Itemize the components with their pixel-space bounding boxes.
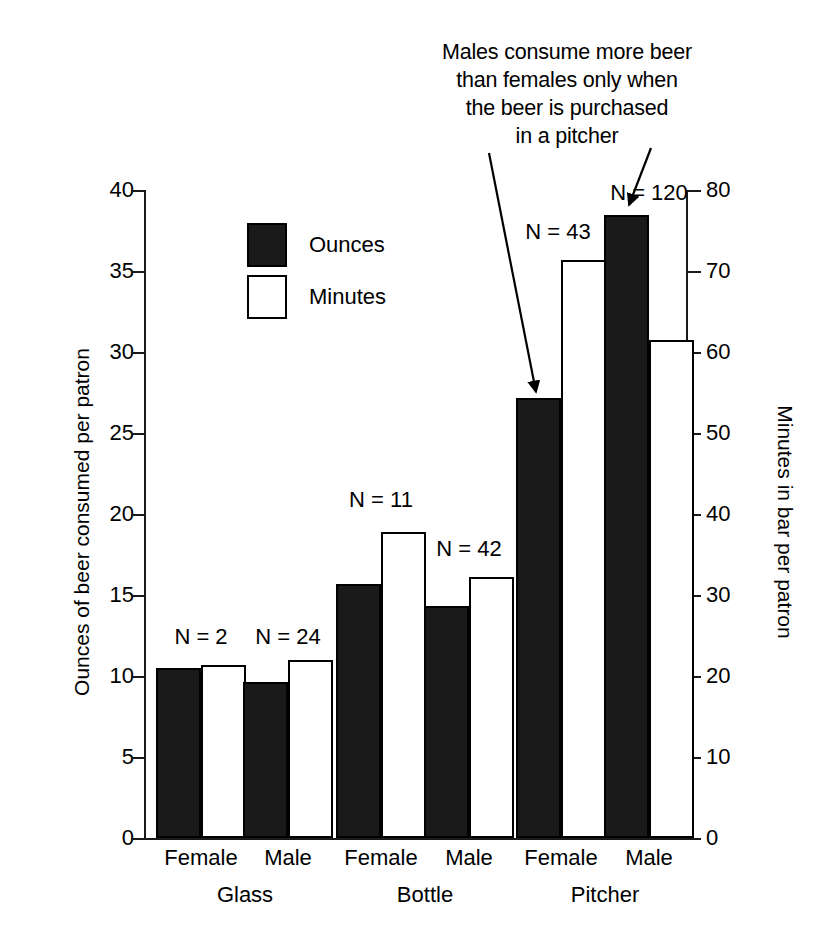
bar-ounces-pitcher-female (516, 398, 561, 838)
open-square-icon (247, 275, 287, 319)
y-tick-left-20: 20 (90, 503, 134, 525)
x-label-pitcher-male: Male (594, 846, 704, 870)
n-label-glass-male: N = 24 (233, 626, 343, 648)
n-label-pitcher-female: N = 43 (498, 221, 618, 243)
plot-area: N = 2 N = 24 N = 11 N = 42 N = 43 N = 12… (146, 190, 686, 838)
legend-label-minutes: Minutes (309, 286, 386, 308)
n-label-bottle-female: N = 11 (326, 489, 436, 511)
filled-square-icon (247, 223, 287, 267)
y-tick-mark-left-0 (131, 838, 144, 840)
annotation-line-2: than females only when (402, 66, 732, 94)
bar-ounces-bottle-female (336, 584, 381, 838)
chart-annotation: Males consume more beer than females onl… (402, 38, 732, 150)
y-tick-left-25: 25 (90, 422, 134, 444)
n-label-bottle-male: N = 42 (414, 538, 524, 560)
group-label-glass: Glass (146, 883, 344, 907)
y-tick-right-10: 10 (706, 746, 750, 768)
y-tick-right-60: 60 (706, 341, 750, 363)
annotation-line-3: the beer is purchased (402, 94, 732, 122)
y-tick-left-0: 0 (90, 827, 134, 849)
y-tick-mark-left-35 (131, 271, 144, 273)
bar-minutes-bottle-male (469, 577, 514, 838)
y-tick-right-0: 0 (706, 827, 750, 849)
annotation-line-1: Males consume more beer (402, 38, 732, 66)
y-tick-right-20: 20 (706, 665, 750, 687)
x-axis-line (144, 838, 688, 840)
y-tick-mark-left-20 (131, 514, 144, 516)
y-tick-right-50: 50 (706, 422, 750, 444)
y-tick-left-10: 10 (90, 665, 134, 687)
legend-label-ounces: Ounces (309, 234, 385, 256)
y-tick-mark-left-15 (131, 595, 144, 597)
bar-minutes-glass-female (201, 665, 246, 838)
y-tick-mark-left-10 (131, 676, 144, 678)
y-tick-mark-left-30 (131, 352, 144, 354)
y-tick-right-40: 40 (706, 503, 750, 525)
y-tick-left-35: 35 (90, 260, 134, 282)
y-tick-left-30: 30 (90, 341, 134, 363)
n-label-pitcher-male: N = 120 (584, 182, 714, 204)
bar-minutes-bottle-female (381, 532, 426, 838)
bar-ounces-glass-male (243, 682, 288, 838)
bar-minutes-pitcher-female (561, 260, 606, 838)
group-label-bottle: Bottle (326, 883, 524, 907)
y-tick-mark-left-25 (131, 433, 144, 435)
y-tick-mark-left-40 (131, 190, 144, 192)
y-axis-right-title: Minutes in bar per patron (773, 292, 797, 752)
bar-ounces-bottle-male (424, 606, 469, 838)
y-tick-mark-left-5 (131, 757, 144, 759)
y-tick-right-30: 30 (706, 584, 750, 606)
y-tick-mark-right-0 (688, 838, 701, 840)
y-tick-left-5: 5 (90, 746, 134, 768)
y-tick-right-70: 70 (706, 260, 750, 282)
y-tick-mark-right-70 (688, 271, 701, 273)
bar-ounces-pitcher-male (604, 215, 649, 838)
group-label-pitcher: Pitcher (506, 883, 704, 907)
y-tick-left-40: 40 (90, 179, 134, 201)
bar-minutes-pitcher-male (649, 340, 694, 838)
y-tick-left-15: 15 (90, 584, 134, 606)
annotation-line-4: in a pitcher (402, 122, 732, 150)
bar-minutes-glass-male (288, 660, 333, 838)
bar-ounces-glass-female (156, 668, 201, 838)
y-axis-left-line (144, 190, 146, 840)
bar-chart-figure: Males consume more beer than females onl… (0, 0, 835, 942)
